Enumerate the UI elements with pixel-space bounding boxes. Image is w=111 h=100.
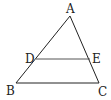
triangle-figure: A B C D E <box>0 0 111 100</box>
label-a: A <box>65 2 75 16</box>
geometry-diagram: A B C D E <box>0 0 111 100</box>
segment-ac <box>70 16 99 83</box>
label-b: B <box>6 84 15 98</box>
label-c: C <box>98 85 107 99</box>
segment-ab <box>16 16 70 83</box>
label-e: E <box>92 52 101 66</box>
label-d: D <box>25 52 35 66</box>
